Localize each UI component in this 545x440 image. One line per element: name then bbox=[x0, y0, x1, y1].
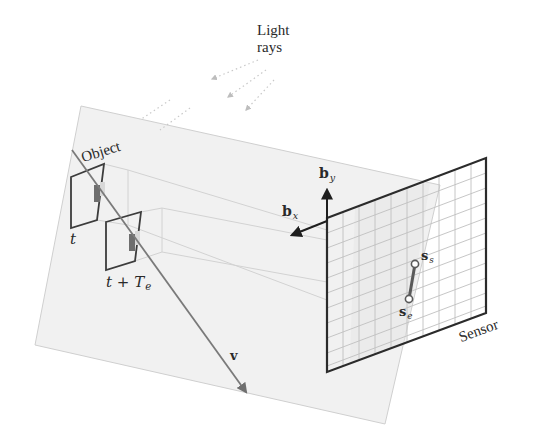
end-point-label: se bbox=[399, 305, 413, 318]
light-rays bbox=[140, 60, 274, 130]
time-start-label: t bbox=[70, 232, 76, 247]
light-rays-label: Light rays bbox=[257, 22, 290, 56]
diagram-canvas bbox=[0, 0, 545, 440]
velocity-label: v bbox=[230, 349, 238, 362]
time-end-label: t + Te bbox=[106, 275, 151, 290]
basis-y-label: by bbox=[319, 166, 335, 180]
start-point-label: ss bbox=[421, 249, 434, 262]
basis-x-label: bx bbox=[282, 204, 298, 218]
start-point-marker bbox=[411, 260, 418, 267]
end-point-marker bbox=[405, 295, 412, 302]
